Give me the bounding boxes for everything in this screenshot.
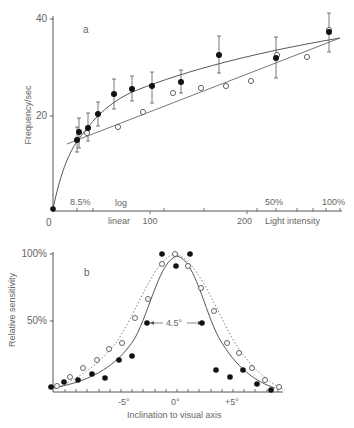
- x-tick-label-0: 0: [46, 217, 52, 228]
- x-tick-label-minus5: -5°: [118, 397, 130, 407]
- y-tick-label-20: 20: [36, 110, 48, 121]
- x-tick-label-100: 100: [142, 216, 157, 226]
- x-tick-label-plus5: +5°: [225, 397, 239, 407]
- linear-scale-label: linear: [108, 216, 130, 226]
- width-annotation: 4.5°: [150, 318, 202, 328]
- panel-b: 100% 50% Relative sensitivity b -5° 0° +…: [7, 248, 285, 420]
- filled-circle-series-a: [50, 29, 332, 212]
- open-circle-series-a: [84, 27, 331, 135]
- annotation-4-5-deg: 4.5°: [166, 318, 183, 328]
- panel-label-b: b: [84, 267, 90, 278]
- panel-label-a: a: [83, 24, 89, 35]
- filled-circle-series-b: [48, 251, 274, 393]
- x-tick-label-100pct: 100%: [322, 197, 345, 207]
- y-axis-label: Relative sensitivity: [7, 272, 17, 347]
- x-axis-label: Light intensity: [265, 216, 321, 226]
- x-tick-label-50pct: 50%: [265, 197, 283, 207]
- y-tick-label-40: 40: [36, 13, 48, 24]
- panel-a: 40 20 Frequency/sec a 0 8.5% log linear …: [23, 13, 345, 228]
- log-scale-label: log: [115, 198, 127, 208]
- y-tick-label-50pct: 50%: [27, 315, 47, 326]
- x-tick-label-200: 200: [237, 216, 252, 226]
- y-tick-label-100pct: 100%: [21, 248, 47, 259]
- error-bars: [75, 13, 331, 152]
- x-tick-label-0: 0°: [171, 397, 180, 407]
- x-axis-label: Inclination to visual axis: [127, 410, 222, 420]
- figure: 40 20 Frequency/sec a 0 8.5% log linear …: [0, 0, 354, 428]
- saturating-fit-curve: [53, 38, 340, 209]
- y-axis-label: Frequency/sec: [23, 85, 33, 145]
- x-tick-label-8-5pct: 8.5%: [70, 197, 91, 207]
- log-fit-line: [67, 38, 340, 144]
